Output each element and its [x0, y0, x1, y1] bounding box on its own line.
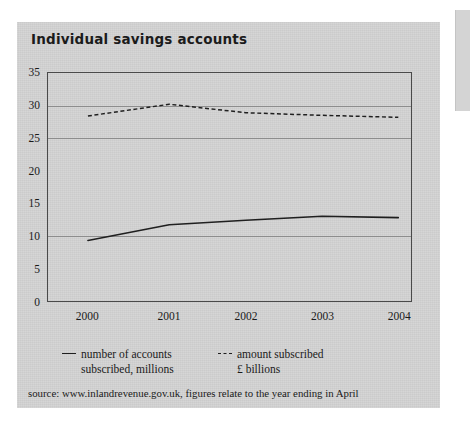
- x-tick-2003: 2003: [311, 310, 334, 322]
- legend-entry-amount: amount subscribed £ billions: [218, 347, 324, 376]
- y-axis-tick-labels: 35 30 25 20 15 10 5 0: [8, 72, 40, 302]
- legend-label-accounts: number of accounts subscribed, millions: [81, 347, 174, 376]
- legend-label-amount-line2: £ billions: [237, 362, 324, 377]
- chart-legend: number of accounts subscribed, millions …: [62, 347, 392, 379]
- x-axis-tick-labels: 2000 2001 2002 2003 2004: [47, 310, 412, 326]
- y-tick-15: 15: [10, 197, 40, 209]
- y-tick-10: 10: [10, 230, 40, 242]
- adjacent-page-edge: [455, 10, 470, 111]
- source-note: source: www.inlandrevenue.gov.uk, figure…: [28, 387, 359, 399]
- y-tick-25: 25: [10, 132, 40, 144]
- x-tick-2000: 2000: [76, 310, 99, 322]
- y-tick-30: 30: [10, 99, 40, 111]
- plot-area: [47, 72, 412, 302]
- series-plot: [48, 73, 411, 301]
- x-tick-2002: 2002: [234, 310, 257, 322]
- y-tick-35: 35: [10, 66, 40, 78]
- legend-label-accounts-line1: number of accounts: [81, 348, 172, 360]
- x-tick-2004: 2004: [388, 310, 411, 322]
- y-tick-5: 5: [10, 263, 40, 275]
- dashed-line-icon: [218, 353, 232, 354]
- series-line-amount-subscribed: [88, 104, 398, 117]
- legend-label-amount-line1: amount subscribed: [237, 348, 324, 360]
- solid-line-icon: [62, 353, 76, 354]
- y-tick-0: 0: [10, 296, 40, 308]
- legend-entry-accounts: number of accounts subscribed, millions: [62, 347, 174, 376]
- series-line-number-of-accounts: [88, 216, 398, 240]
- legend-label-amount: amount subscribed £ billions: [237, 347, 324, 376]
- x-tick-2001: 2001: [157, 310, 180, 322]
- legend-label-accounts-line2: subscribed, millions: [81, 362, 174, 377]
- y-tick-20: 20: [10, 165, 40, 177]
- chart-title: Individual savings accounts: [31, 31, 247, 47]
